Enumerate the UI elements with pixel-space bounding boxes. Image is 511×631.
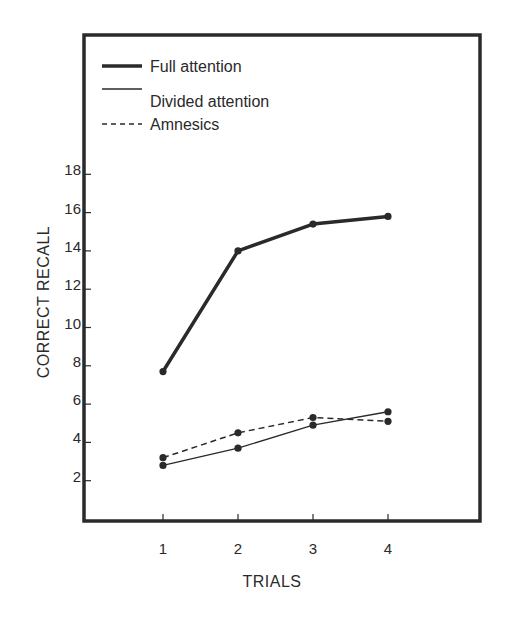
y-tick-label: 12	[64, 276, 81, 293]
legend-label-divided-attention: Divided attention	[150, 93, 269, 110]
y-tick-label: 18	[64, 161, 81, 178]
series-layer	[159, 213, 391, 469]
data-point	[309, 220, 316, 227]
series-line	[163, 418, 388, 458]
data-point	[384, 213, 391, 220]
data-point	[384, 408, 391, 415]
data-point	[384, 418, 391, 425]
line-chart: 24681012141618 1234 Full attention Divid…	[0, 0, 511, 631]
x-tick-label: 3	[309, 540, 317, 557]
y-axis-title: CORRECT RECALL	[35, 226, 52, 379]
data-point	[234, 429, 241, 436]
y-tick-label: 8	[73, 353, 81, 370]
data-point	[159, 454, 166, 461]
data-point	[309, 414, 316, 421]
x-tick-label: 4	[384, 540, 392, 557]
y-tick-label: 4	[73, 429, 81, 446]
legend-label-full-attention: Full attention	[150, 58, 242, 75]
data-point	[234, 445, 241, 452]
y-tick-label: 6	[73, 391, 81, 408]
x-axis-title: TRIALS	[242, 573, 301, 590]
series-line	[163, 412, 388, 466]
y-tick-label: 2	[73, 468, 81, 485]
y-axis-ticks: 24681012141618	[64, 161, 91, 484]
series-line	[163, 216, 388, 371]
data-point	[159, 368, 166, 375]
data-point	[159, 462, 166, 469]
x-tick-label: 1	[159, 540, 167, 557]
data-point	[309, 422, 316, 429]
series-full-attention	[159, 213, 391, 375]
legend: Full attention Divided attention Amnesic…	[102, 58, 269, 133]
y-tick-label: 10	[64, 315, 81, 332]
data-point	[234, 247, 241, 254]
series-amnesics	[159, 414, 391, 461]
x-tick-label: 2	[234, 540, 242, 557]
legend-label-amnesics: Amnesics	[150, 116, 219, 133]
y-tick-label: 16	[64, 200, 81, 217]
y-tick-label: 14	[64, 238, 81, 255]
plot-frame	[84, 35, 480, 521]
series-divided-attention	[159, 408, 391, 469]
